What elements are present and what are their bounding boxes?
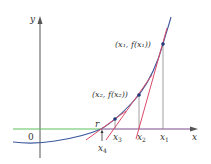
origin-label: 0 bbox=[28, 132, 34, 142]
point-x2-coord-label: (x₂, f(x₂)) bbox=[92, 90, 128, 99]
function-curve bbox=[13, 17, 171, 143]
x4-arrow-icon bbox=[101, 130, 104, 134]
x-axis-arrow-icon bbox=[190, 127, 198, 132]
y-axis-arrow-icon bbox=[38, 16, 43, 24]
y-axis-label: y bbox=[29, 14, 36, 24]
point-x2 bbox=[137, 93, 141, 97]
newtons-method-diagram: y x 0 r (x₁, f(x₁)) (x₂, f(x₂)) x1 x2 x3… bbox=[0, 0, 211, 164]
x1-label: x1 bbox=[160, 132, 169, 143]
root-label: r bbox=[95, 119, 100, 129]
point-x3 bbox=[113, 117, 117, 121]
x4-label: x4 bbox=[98, 143, 107, 154]
x2-label: x2 bbox=[137, 132, 146, 143]
x3-label: x3 bbox=[113, 132, 122, 143]
diagram-canvas: y x 0 r (x₁, f(x₁)) (x₂, f(x₂)) x1 x2 x3… bbox=[0, 0, 211, 164]
x-axis-label: x bbox=[192, 132, 197, 142]
point-x1 bbox=[161, 42, 165, 46]
point-x1-coord-label: (x₁, f(x₁)) bbox=[115, 40, 151, 49]
